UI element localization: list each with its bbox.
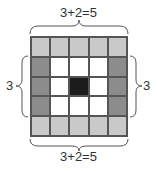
grid-cell-light [31, 37, 50, 57]
right-brace [130, 56, 142, 117]
bottom-label: 3+2=5 [0, 150, 157, 164]
top-brace [30, 20, 128, 34]
grid-cell-center [69, 77, 88, 97]
grid-cell-dark [31, 96, 50, 116]
square-grid [30, 36, 128, 137]
grid-cell-light [31, 116, 50, 136]
grid-cell-empty [50, 57, 69, 77]
grid-cell-light [108, 116, 127, 136]
right-label: 3 [143, 79, 150, 93]
grid-cell-empty [69, 96, 88, 116]
left-label: 3 [6, 79, 13, 93]
top-label: 3+2=5 [0, 6, 157, 20]
grid-cell-light [89, 37, 108, 57]
grid-cell-light [69, 116, 88, 136]
grid-cell-light [69, 37, 88, 57]
grid-cell-dark [108, 77, 127, 97]
grid-cell-light [89, 116, 108, 136]
grid-cell-dark [31, 77, 50, 97]
grid-cell-empty [89, 77, 108, 97]
grid-cell-empty [50, 96, 69, 116]
grid-cell-dark [31, 57, 50, 77]
grid-cell-empty [89, 57, 108, 77]
grid-cell-empty [50, 77, 69, 97]
grid-cell-light [50, 37, 69, 57]
grid-cell-light [108, 37, 127, 57]
grid-cell-dark [108, 96, 127, 116]
grid-cell-light [50, 116, 69, 136]
grid-cell-dark [108, 57, 127, 77]
grid-cell-empty [69, 57, 88, 77]
left-brace [16, 56, 28, 117]
grid-cell-empty [89, 96, 108, 116]
